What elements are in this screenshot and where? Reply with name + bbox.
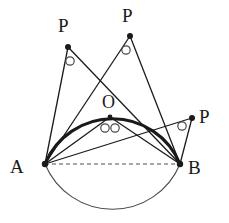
angle-mark-inscribed-p1 bbox=[66, 57, 74, 65]
segment-O-A bbox=[45, 117, 110, 164]
vertex-dot-p1 bbox=[65, 44, 71, 50]
angle-mark-inscribed-p3 bbox=[178, 122, 186, 130]
angle-mark-central-left bbox=[101, 124, 109, 132]
point-label-a: A bbox=[10, 157, 24, 176]
segment-B-P2 bbox=[130, 36, 180, 164]
angle-mark-inscribed-p2 bbox=[122, 46, 130, 54]
vertex-dot-p3 bbox=[189, 115, 195, 121]
vertex-dot-center-o bbox=[108, 115, 113, 120]
segment-B-P1 bbox=[68, 47, 180, 164]
vertex-dot-b bbox=[177, 161, 183, 167]
geometry-figure: P P P O A B bbox=[0, 0, 229, 223]
point-label-b: B bbox=[188, 158, 201, 177]
point-label-center-o: O bbox=[102, 93, 115, 111]
angle-mark-central-right bbox=[111, 124, 119, 132]
vertex-dot-a bbox=[42, 161, 48, 167]
circle-minor-arc bbox=[45, 164, 180, 209]
point-label-p2: P bbox=[122, 6, 133, 25]
point-label-p1: P bbox=[58, 16, 69, 35]
vertex-dot-p2 bbox=[127, 33, 133, 39]
point-label-p3: P bbox=[199, 107, 210, 126]
